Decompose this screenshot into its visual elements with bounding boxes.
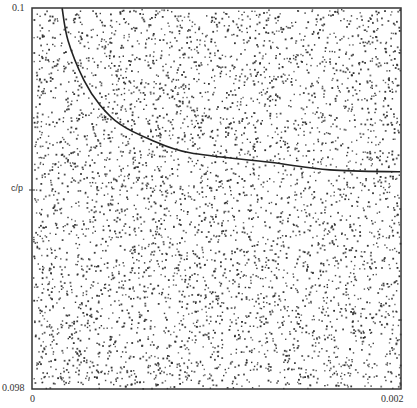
- scatter-plot: [0, 0, 417, 408]
- y-tick-label-top: 0.1: [12, 2, 25, 13]
- y-tick-label-bottom: 0.098: [2, 382, 25, 393]
- x-tick-label-right: 0.002: [381, 393, 404, 404]
- scatter-points: [33, 9, 402, 390]
- x-tick-label-left: 0: [30, 393, 35, 404]
- y-tick-label-cp: c/p: [11, 183, 23, 193]
